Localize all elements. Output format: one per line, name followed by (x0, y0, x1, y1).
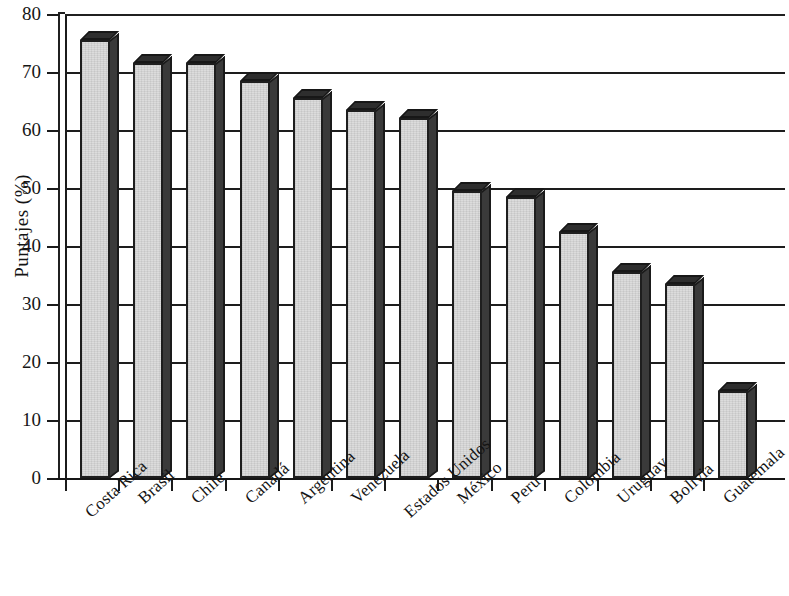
y-tick-70 (47, 72, 59, 74)
bar-guatemala (718, 391, 748, 478)
y-tick-label-20: 20 (0, 352, 41, 371)
bar-chile (186, 63, 216, 478)
bar-front-face (506, 197, 536, 478)
bar-front-face (80, 40, 110, 478)
y-tick-label-80: 80 (0, 4, 41, 23)
bar-side-face (429, 111, 438, 478)
bar-brasil (133, 63, 163, 478)
bar-front-face (452, 191, 482, 478)
bar-side-face (216, 56, 225, 478)
y-tick-50 (47, 188, 59, 190)
bar-side-face (110, 33, 119, 478)
bar-front-face (665, 284, 695, 478)
bar-side-face (695, 277, 704, 478)
bar-side-face (482, 184, 491, 478)
bar-front-face (240, 81, 270, 478)
gridline-80 (65, 14, 785, 16)
bar-front-face (559, 232, 589, 479)
bar-front-face (718, 391, 748, 478)
y-tick-10 (47, 420, 59, 422)
y-tick-20 (47, 362, 59, 364)
bar-front-face (399, 118, 429, 478)
y-axis-spine (58, 12, 65, 480)
bar-side-face (589, 224, 598, 478)
bar-bolivia (665, 284, 695, 478)
y-tick-label-50: 50 (0, 178, 41, 197)
bar-front-face (293, 98, 323, 478)
gridline-70 (65, 72, 785, 74)
bar-side-face (270, 74, 279, 478)
bar-front-face (133, 63, 163, 478)
bar-side-face (323, 91, 332, 478)
y-tick-label-10: 10 (0, 410, 41, 429)
bar-argentina (293, 98, 323, 478)
y-tick-60 (47, 130, 59, 132)
bar-front-face (612, 272, 642, 478)
bar-venezuela (346, 110, 376, 478)
bar-front-face (186, 63, 216, 478)
bar-side-face (642, 265, 651, 478)
bar-uruguay (612, 272, 642, 478)
bar-colombia (559, 232, 589, 479)
y-axis-title: Puntajes (%) (11, 136, 33, 316)
bar-estados-unidos (399, 118, 429, 478)
bar-side-face (376, 103, 385, 478)
plot-area: 01020304050607080 (65, 14, 785, 478)
y-tick-label-60: 60 (0, 120, 41, 139)
y-tick-label-40: 40 (0, 236, 41, 255)
y-tick-label-70: 70 (0, 62, 41, 81)
x-tick-0 (65, 480, 67, 491)
y-tick-40 (47, 246, 59, 248)
bar-canadá (240, 81, 270, 478)
y-tick-label-0: 0 (0, 468, 41, 487)
bar-costa-rica (80, 40, 110, 478)
bar-side-face (163, 56, 172, 478)
bar-perú (506, 197, 536, 478)
y-tick-label-30: 30 (0, 294, 41, 313)
bar-méxico (452, 191, 482, 478)
y-tick-80 (47, 14, 59, 16)
bar-front-face (346, 110, 376, 478)
y-tick-30 (47, 304, 59, 306)
bar-side-face (536, 190, 545, 478)
